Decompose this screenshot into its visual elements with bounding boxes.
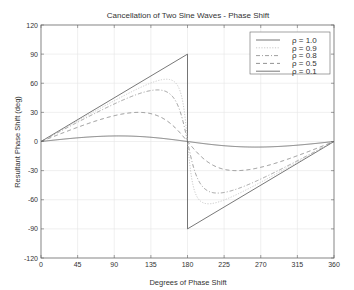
x-tick-label: 0 [39, 261, 43, 268]
x-tick-label: 90 [110, 261, 118, 268]
chart: Cancellation of Two Sine Waves - Phase S… [0, 0, 354, 290]
y-tick-label: -30 [28, 167, 38, 174]
legend-box [250, 32, 330, 74]
legend-entry: ρ = 0.1 [292, 67, 317, 76]
legend: ρ = 1.0ρ = 0.9ρ = 0.8ρ = 0.5ρ = 0.1 [250, 32, 330, 76]
y-tick-label: -60 [28, 196, 38, 203]
x-axis-label: Degrees of Phase Shift [149, 278, 227, 287]
y-tick-label: 90 [30, 51, 38, 58]
x-tick-label: 225 [218, 261, 230, 268]
y-tick-label: 0 [34, 138, 38, 145]
x-tick-label: 180 [182, 261, 194, 268]
y-tick-label: 60 [30, 80, 38, 87]
y-tick-label: -120 [24, 255, 38, 262]
y-axis-label: Resultant Phase Shift (deg) [13, 96, 22, 188]
x-tick-label: 315 [292, 261, 304, 268]
y-tick-label: 30 [30, 109, 38, 116]
x-tick-label: 270 [255, 261, 267, 268]
x-tick-label: 135 [145, 261, 157, 268]
y-tick-label: 120 [26, 22, 38, 29]
x-tick-label: 360 [328, 261, 340, 268]
chart-title: Cancellation of Two Sine Waves - Phase S… [107, 11, 270, 20]
x-tick-label: 45 [74, 261, 82, 268]
y-tick-label: -90 [28, 225, 38, 232]
